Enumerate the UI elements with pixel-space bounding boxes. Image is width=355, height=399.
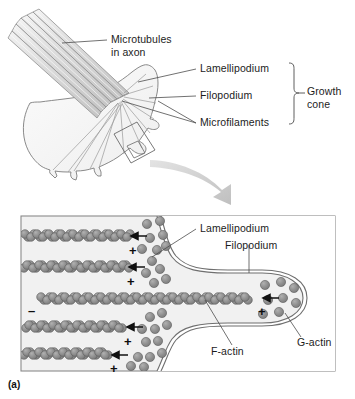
label-g-actin: G-actin <box>297 336 332 349</box>
label-lamellipodium-detail: Lamellipodium <box>200 222 269 235</box>
label-microfilaments-top: Microfilaments <box>200 116 269 129</box>
figure-caption: (a) <box>8 379 20 390</box>
plus-end-sign: + <box>110 364 118 374</box>
plus-end-sign: + <box>258 307 266 317</box>
top-panel-illustration <box>0 0 355 205</box>
growth-cone-figure: Microtubules in axon Lamellipodium Filop… <box>0 0 355 399</box>
plus-end-sign: + <box>127 277 135 287</box>
bottom-panel-illustration <box>0 205 355 395</box>
label-f-actin: F-actin <box>211 345 244 358</box>
plus-end-sign: + <box>129 246 137 256</box>
label-growth-cone: Growth cone <box>307 85 341 110</box>
transition-arrow <box>150 160 231 205</box>
minus-end-sign: – <box>28 306 35 316</box>
label-microtubules: Microtubules in axon <box>111 33 172 58</box>
growth-cone-bracket <box>289 63 305 124</box>
label-filopodium-top: Filopodium <box>200 89 252 102</box>
plus-end-sign: + <box>124 337 132 347</box>
label-lamellipodium-top: Lamellipodium <box>200 62 269 75</box>
f-actin-filament <box>22 321 127 333</box>
label-filopodium-detail: Filopodium <box>225 239 277 252</box>
f-actin-filament <box>20 348 113 360</box>
